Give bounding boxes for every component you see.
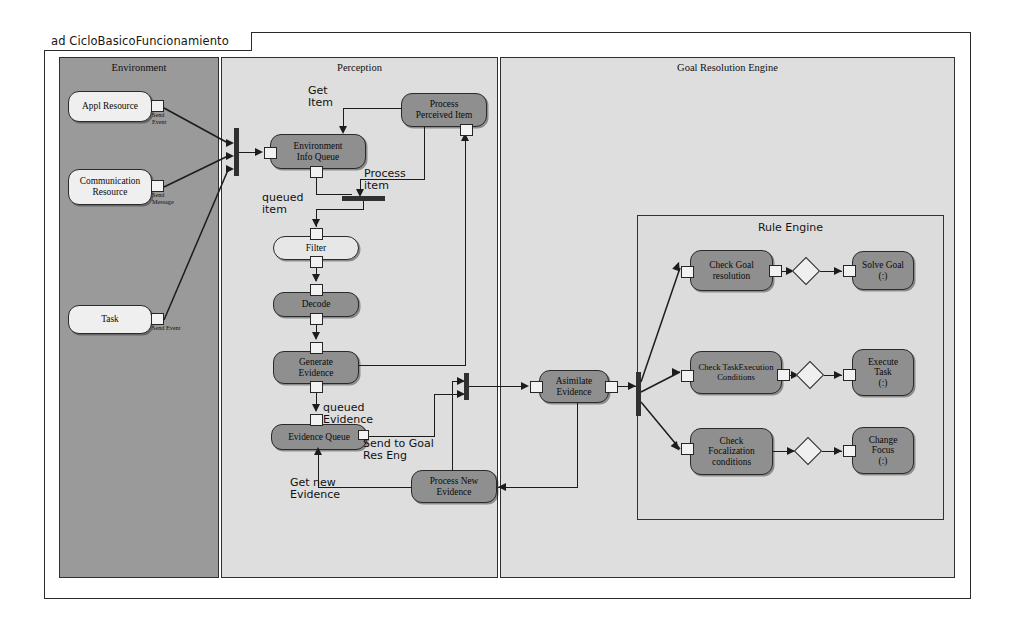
pin-change-focus-in[interactable] (843, 445, 856, 457)
arrowhead-diamond-to-execute-task (834, 371, 842, 379)
pin-evidence-queue-in[interactable] (310, 414, 323, 426)
pin-asimilate-evidence-out[interactable] (605, 381, 618, 393)
arrowhead-join-to-env-queue (255, 148, 263, 156)
fork-bar-rule-engine (636, 372, 641, 416)
edge-rule-engine-return-h (498, 487, 578, 488)
pin-check-task-execution-out[interactable] (777, 369, 790, 381)
arrowhead-join-to-asimilate (521, 382, 529, 390)
pin-solve-goal-in[interactable] (843, 265, 856, 277)
pin-filter-in[interactable] (310, 228, 323, 240)
arrowhead-filter-to-decode (312, 274, 320, 282)
edge-label-get-new-evidence: Get new Evidence (290, 477, 340, 502)
pin-asimilate-evidence-in[interactable] (530, 381, 543, 393)
pin-generate-evidence-out[interactable] (310, 381, 323, 393)
arrowhead-asimilate-to-fork (628, 382, 636, 390)
arrowhead-to-filter (312, 219, 320, 227)
edge-label-process-item: Process item (364, 168, 406, 193)
edge-label-get-item: Get Item (308, 85, 333, 110)
arrowhead-rule-engine-return (498, 483, 506, 491)
edge-rule-engine-return-v (577, 403, 578, 488)
pin-check-goal-resolution-out[interactable] (769, 265, 782, 277)
pin-execute-task-in[interactable] (843, 369, 856, 381)
pin-filter-out[interactable] (310, 256, 323, 268)
pin-decode-out[interactable] (310, 313, 323, 325)
join-bar-evidence-inputs (464, 373, 469, 400)
arrowhead-fork-to-check-task (672, 368, 680, 376)
pin-environment-info-queue-in[interactable] (264, 147, 277, 159)
arrowhead-comm-to-join (226, 152, 234, 160)
arrowhead-get-item (339, 126, 347, 134)
pin-generate-evidence-in[interactable] (310, 342, 323, 354)
pin-check-goal-resolution-in[interactable] (681, 266, 694, 278)
arrowhead-appl-to-join (226, 139, 234, 147)
arrowhead-diamond-to-change-focus (834, 447, 842, 455)
pin-label-task-send-event: Send Event (152, 325, 180, 332)
pin-label-communication-resource-send-message: Send Message (152, 192, 174, 206)
arrowhead-diamond-to-solve-goal (834, 267, 842, 275)
arrowhead-queued-evidence (312, 404, 320, 412)
pin-environment-info-queue-out[interactable] (310, 166, 323, 178)
edge-label-queued-evidence: queued Evidence (323, 402, 373, 427)
pin-check-task-execution-in[interactable] (681, 370, 694, 382)
join-bar-environment-inputs (234, 128, 239, 176)
edge-label-send-to-goal-res-eng: Send to Goal Res Eng (363, 438, 434, 463)
pin-check-focalization-in[interactable] (681, 443, 694, 455)
pin-process-perceived-item-in[interactable] (460, 124, 473, 136)
arrowhead-task-to-join (226, 165, 234, 173)
activity-diagram-canvas: ad CicloBasicoFuncionamiento Environment… (0, 0, 1019, 635)
edge-label-queued-item: queued item (262, 192, 303, 217)
pin-decode-in[interactable] (310, 284, 323, 296)
arrowhead-get-new-evidence (314, 447, 322, 455)
join-bar-process-item (342, 196, 385, 201)
arrowhead-decode-to-generate (312, 332, 320, 340)
pin-label-appl-resource-send-event: Send Event (152, 112, 166, 126)
